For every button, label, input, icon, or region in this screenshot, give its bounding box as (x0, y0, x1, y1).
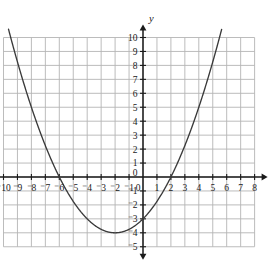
y-tick-label: 9 (133, 47, 138, 57)
y-tick-label: 5 (133, 103, 138, 113)
x-tick-label: 1 (155, 183, 160, 193)
y-tick-label: ⁻3 (128, 214, 138, 224)
y-tick-label: 10 (128, 33, 138, 43)
x-tick-label: ⁻7 (40, 183, 50, 193)
y-tick-label: ⁻1 (128, 186, 138, 196)
x-tick-label: 2 (169, 183, 174, 193)
y-tick-label: 7 (133, 75, 138, 85)
origin-label: 0 (133, 168, 138, 178)
y-tick-label: ⁻2 (128, 200, 138, 210)
x-tick-label: ⁻2 (110, 183, 120, 193)
x-tick-label: 5 (210, 183, 215, 193)
coordinate-plane-graph: ⁻10⁻9⁻8⁻7⁻6⁻5⁻4⁻3⁻2⁻10123456781098765432… (0, 0, 268, 276)
y-tick-label: 6 (133, 89, 138, 99)
y-tick-label: 8 (133, 61, 138, 71)
x-tick-label: 8 (252, 183, 257, 193)
graph-canvas: ⁻10⁻9⁻8⁻7⁻6⁻5⁻4⁻3⁻2⁻10123456781098765432… (0, 0, 268, 276)
y-tick-label: 4 (133, 117, 138, 127)
x-tick-label: 7 (238, 183, 243, 193)
y-tick-label: ⁻4 (128, 228, 138, 238)
x-tick-label: 4 (196, 183, 201, 193)
y-tick-label: 2 (133, 145, 138, 155)
x-tick-label: ⁻10 (0, 183, 11, 193)
x-tick-label: 6 (224, 183, 229, 193)
x-tick-label: ⁻8 (27, 183, 37, 193)
x-tick-label: ⁻5 (68, 183, 78, 193)
y-tick-label: ⁻5 (128, 242, 138, 252)
x-tick-label: ⁻6 (54, 183, 64, 193)
x-tick-label: ⁻3 (96, 183, 106, 193)
x-tick-label: 3 (182, 183, 187, 193)
x-tick-label: ⁻4 (82, 183, 92, 193)
x-tick-label: ⁻9 (13, 183, 23, 193)
y-axis-label: y (148, 13, 154, 24)
y-tick-label: 3 (133, 131, 138, 141)
